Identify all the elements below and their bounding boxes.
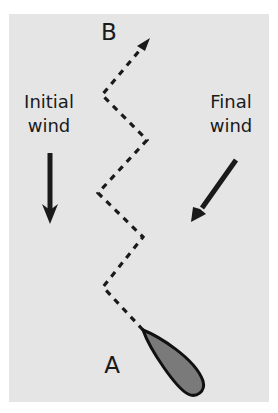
initial-wind-arrow-icon	[42, 153, 58, 224]
sailing-diagram	[0, 0, 278, 413]
initial-wind-label-line1: Initial	[14, 89, 84, 114]
final-wind-label-line2: wind	[196, 113, 266, 138]
arrowhead-icon	[137, 38, 150, 51]
boat-icon	[143, 330, 204, 395]
tacking-path	[98, 38, 150, 330]
point-b-label: B	[98, 20, 120, 45]
initial-wind-label-line2: wind	[14, 113, 84, 138]
point-a-label: A	[101, 353, 123, 378]
final-wind-label-line1: Final	[196, 89, 266, 114]
final-wind-arrow-icon	[191, 160, 236, 222]
